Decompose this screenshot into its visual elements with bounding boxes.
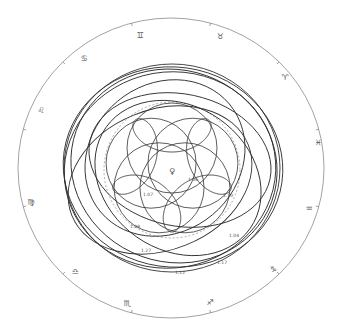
zodiac-pisces-icon: ♓ [314, 138, 321, 147]
ring-tick [23, 206, 26, 207]
ring-tick [210, 310, 211, 313]
distance-label: 1.27 [141, 248, 151, 253]
distance-label: 1.12 [175, 270, 185, 275]
distance-label: 1.06 [188, 177, 198, 182]
zodiac-scorpio-icon: ♏ [123, 299, 131, 308]
diagram-canvas: ♉♊♋♌♍♎♏♐♑♒♓♈♀1.061.071.081.101.041.271.1… [0, 0, 341, 334]
ring-tick [63, 272, 65, 274]
ring-tick [316, 129, 319, 130]
distance-label: 1.17 [217, 260, 227, 265]
distance-label: 1.07 [143, 192, 153, 197]
zodiac-cancer-icon: ♋ [80, 54, 87, 63]
orbit-loop [65, 69, 292, 288]
zodiac-aries-icon: ♈ [281, 73, 288, 82]
venus-orbit-diagram: ♉♊♋♌♍♎♏♐♑♒♓♈♀1.061.071.081.101.041.271.1… [0, 0, 341, 334]
zodiac-leo-icon: ♌ [37, 106, 44, 115]
zodiac-capricorn-icon: ♑ [269, 265, 276, 274]
distance-label: 1.10 [223, 193, 233, 198]
distance-label: 1.08 [130, 224, 140, 229]
ring-tick [131, 23, 132, 26]
zodiac-aquarius-icon: ♒ [305, 204, 312, 213]
zodiac-taurus-icon: ♉ [216, 32, 223, 41]
ring-tick [63, 62, 65, 64]
ring-tick [277, 272, 279, 274]
orbit-loop [46, 80, 275, 281]
earth-center-icon: ♀ [169, 167, 175, 176]
zodiac-virgo-icon: ♍ [27, 198, 34, 207]
distance-label: 1.04 [229, 233, 239, 238]
ring-tick [23, 129, 26, 130]
ring-tick [210, 23, 211, 26]
zodiac-gemini-icon: ♊ [136, 31, 143, 40]
zodiac-libra-icon: ♎ [71, 267, 78, 276]
zodiac-sagittarius-icon: ♐ [206, 298, 213, 307]
ring-tick [277, 62, 279, 64]
ring-tick [131, 310, 132, 313]
ring-tick [316, 206, 319, 207]
